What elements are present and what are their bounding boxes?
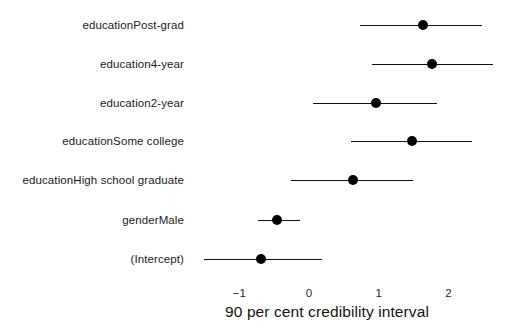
interval-row (0, 252, 524, 266)
point-estimate-marker (371, 98, 381, 108)
point-estimate-marker (427, 59, 437, 69)
point-estimate-marker (418, 20, 428, 30)
interval-row (0, 18, 524, 32)
x-axis-title-text: 90 per cent credibility interval (95, 303, 429, 321)
point-estimate-marker (256, 254, 266, 264)
interval-row (0, 173, 524, 187)
interval-row (0, 96, 524, 110)
point-estimate-marker (348, 175, 358, 185)
x-tick-label-1: 0 (289, 286, 329, 300)
point-estimate-marker (407, 136, 417, 146)
point-estimate-marker (272, 215, 282, 225)
x-tick-label-0: −1 (219, 286, 259, 300)
interval-row (0, 213, 524, 227)
coefficient-plot: educationPost-grad education4-year educa… (0, 0, 524, 334)
x-tick-label-3: 2 (428, 286, 468, 300)
x-axis-title: 90 per cent credibility interval (0, 303, 524, 321)
x-tick-label-2: 1 (359, 286, 399, 300)
interval-row (0, 57, 524, 71)
interval-row (0, 134, 524, 148)
